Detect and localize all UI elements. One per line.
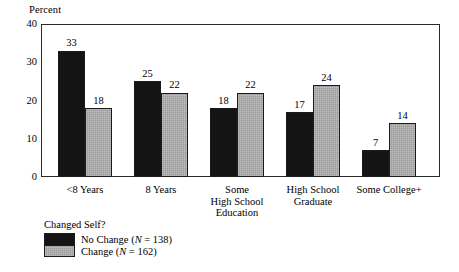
- legend-swatch-box: [44, 233, 75, 257]
- value-label-change-hs-graduate: 24: [321, 73, 332, 84]
- x-category-label-some-high-school-line2: High School: [211, 196, 264, 208]
- value-label-no-change-some-college: 7: [373, 138, 378, 149]
- value-label-no-change-8years: 25: [142, 69, 153, 80]
- value-label-change-some-high-school: 22: [245, 80, 256, 91]
- legend: Changed Self? No Change (N = 138) Change…: [44, 219, 172, 258]
- legend-item-no-change-tail: = 138): [142, 234, 172, 245]
- x-category-label-8years-line1: 8 Years: [146, 184, 177, 196]
- x-category-label-some-high-school: Some High School: [211, 184, 264, 207]
- x-category-label-8years: 8 Years: [146, 184, 177, 196]
- bar-no-change-some-college[interactable]: [362, 150, 389, 177]
- legend-labels: No Change (N = 138) Change (N = 162): [81, 233, 172, 258]
- legend-item-change-text: Change (: [81, 246, 119, 257]
- legend-item-no-change-n: N: [135, 234, 142, 245]
- legend-title: Changed Self?: [44, 219, 172, 231]
- y-tick-label-20: 20: [17, 95, 37, 106]
- bar-change-some-high-school[interactable]: [237, 93, 264, 177]
- value-label-change-8years: 22: [169, 80, 180, 91]
- x-category-label-lt8years-line1: <8 Years: [67, 184, 104, 196]
- value-label-change-some-college: 14: [397, 111, 408, 122]
- bar-chart-figure: Percent 40 30 20 10 0 33 18 25 22 18 22 …: [0, 0, 459, 272]
- x-category-label-hs-graduate-line1: High School: [287, 184, 340, 196]
- legend-swatch-change[interactable]: [45, 245, 74, 257]
- legend-swatch-no-change[interactable]: [45, 234, 74, 245]
- bar-change-some-college[interactable]: [389, 123, 416, 177]
- bar-change-lt8years[interactable]: [85, 108, 112, 177]
- value-label-change-lt8years: 18: [93, 96, 104, 107]
- y-tick-label-0: 0: [17, 172, 37, 183]
- legend-item-change[interactable]: Change (N = 162): [81, 246, 172, 258]
- legend-body: No Change (N = 138) Change (N = 162): [44, 233, 172, 258]
- value-label-no-change-lt8years: 33: [66, 38, 77, 49]
- x-category-label-some-college: Some College+: [356, 184, 421, 196]
- bar-no-change-8years[interactable]: [134, 81, 161, 177]
- value-label-no-change-some-high-school: 18: [218, 96, 229, 107]
- x-category-label-hs-graduate: High School Graduate: [287, 184, 340, 207]
- bar-change-hs-graduate[interactable]: [313, 85, 340, 177]
- y-tick-label-40: 40: [17, 19, 37, 30]
- x-axis-title: Education: [216, 207, 259, 218]
- x-category-label-lt8years: <8 Years: [67, 184, 104, 196]
- value-label-no-change-hs-graduate: 17: [294, 100, 305, 111]
- x-category-label-some-college-line1: Some College+: [356, 184, 421, 196]
- y-tick-label-10: 10: [17, 134, 37, 145]
- bar-no-change-some-high-school[interactable]: [210, 108, 237, 177]
- legend-item-no-change[interactable]: No Change (N = 138): [81, 234, 172, 246]
- x-category-label-hs-graduate-line2: Graduate: [287, 196, 340, 208]
- bar-no-change-hs-graduate[interactable]: [286, 112, 313, 177]
- y-axis-title: Percent: [29, 4, 61, 15]
- legend-item-change-tail: = 162): [126, 246, 156, 257]
- bar-change-8years[interactable]: [161, 93, 188, 177]
- x-category-label-some-high-school-line1: Some: [211, 184, 264, 196]
- legend-item-no-change-text: No Change (: [81, 234, 135, 245]
- bar-no-change-lt8years[interactable]: [58, 51, 85, 177]
- y-tick-label-30: 30: [17, 57, 37, 68]
